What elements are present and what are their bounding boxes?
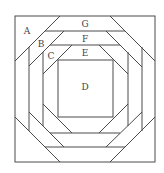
top-right-diagonal-2 [106,31,142,67]
bottom-right-diagonal-1 [110,117,155,162]
bottom-left-diagonal-1 [15,117,60,162]
label-g: G [81,20,88,29]
top-left-diagonal-2 [29,31,64,66]
label-b: B [38,40,45,49]
top-right-diagonal-1 [110,16,155,61]
label-e: E [82,49,89,58]
label-a: A [24,27,31,36]
label-d: D [81,83,88,92]
label-f: F [82,35,88,44]
label-c: C [48,52,55,61]
